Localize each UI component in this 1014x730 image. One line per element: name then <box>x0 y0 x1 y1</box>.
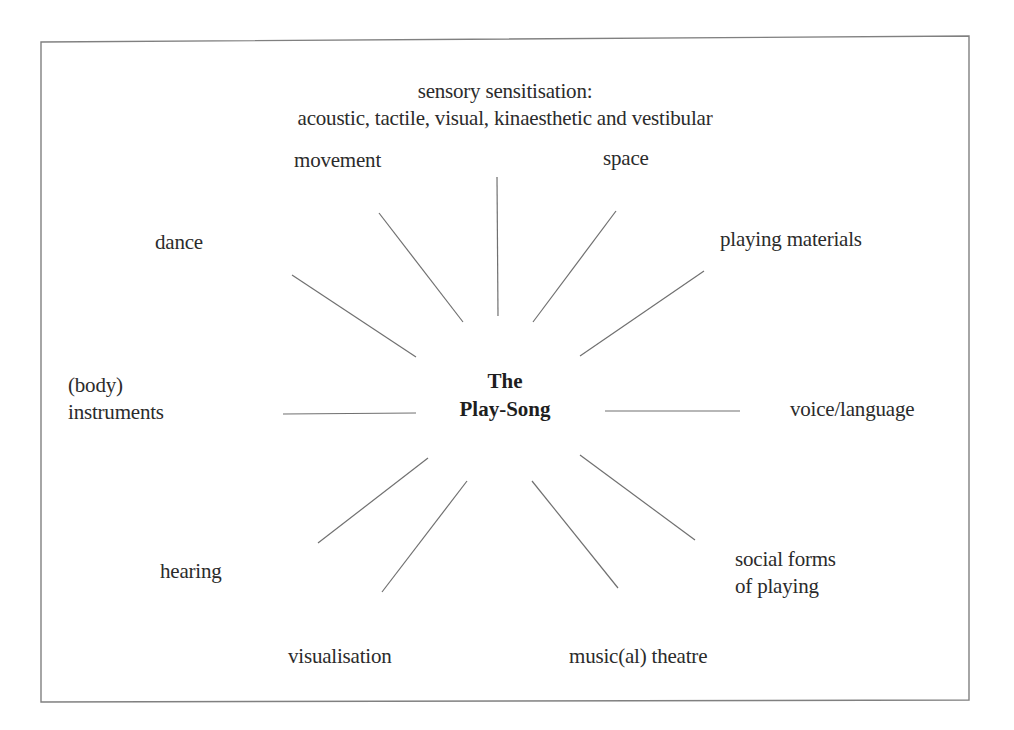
spoke-visualisation <box>382 481 467 592</box>
spoke-movement <box>379 213 463 322</box>
node-visualisation: visualisation <box>288 643 392 670</box>
header-label: sensory sensitisation: acoustic, tactile… <box>298 78 713 132</box>
node-social-forms-line-1: social forms <box>735 546 836 573</box>
spoke-space <box>533 211 616 322</box>
spoke-body-instruments <box>283 413 416 414</box>
spoke-social-forms <box>580 455 695 540</box>
center-line-2: Play-Song <box>459 395 550 423</box>
header-line-2: acoustic, tactile, visual, kinaesthetic … <box>298 105 713 132</box>
spoke-playing-materials <box>580 271 704 356</box>
node-body-instruments-line-2: instruments <box>68 399 164 426</box>
header-line-1: sensory sensitisation: <box>298 78 713 105</box>
center-line-1: The <box>459 367 550 395</box>
node-space: space <box>603 145 649 172</box>
node-dance: dance <box>155 229 203 256</box>
spoke-dance <box>292 275 416 357</box>
spoke-musical-theatre <box>532 481 618 588</box>
node-voice-language: voice/language <box>790 396 914 423</box>
node-body-instruments: (body) instruments <box>68 372 164 426</box>
node-movement: movement <box>294 147 381 174</box>
node-playing-materials: playing materials <box>720 226 862 253</box>
node-body-instruments-line-1: (body) <box>68 372 164 399</box>
node-social-forms-line-2: of playing <box>735 573 836 600</box>
spoke-sensory <box>497 177 498 316</box>
center-node: The Play-Song <box>459 367 550 423</box>
node-hearing: hearing <box>160 558 222 585</box>
node-social-forms: social forms of playing <box>735 546 836 600</box>
node-musical-theatre: music(al) theatre <box>569 643 707 670</box>
spoke-hearing <box>318 458 428 543</box>
